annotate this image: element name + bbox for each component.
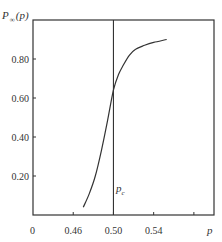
y-axis-label: P∞(p) (1, 9, 29, 24)
x-tick-label: 0.50 (105, 225, 123, 236)
x-origin-label: 0 (30, 225, 35, 236)
x-axis-ticks: 0.460.500.54 (64, 212, 193, 236)
y-tick-label: 0.40 (12, 132, 30, 143)
y-tick-label: 0.60 (12, 93, 30, 104)
x-axis-label: p (206, 224, 213, 236)
x-tick-label: 0.54 (145, 225, 163, 236)
probability-curve (83, 40, 166, 208)
x-tick-label: 0.46 (64, 225, 82, 236)
y-tick-label: 0.80 (12, 54, 30, 65)
plot-border (33, 20, 214, 215)
y-axis-ticks: 0.200.400.600.80 (12, 54, 37, 182)
percolation-chart: 0.460.500.54 0.200.400.600.80 P∞(p) p 0 … (0, 0, 222, 242)
y-tick-label: 0.20 (12, 171, 30, 182)
pc-annotation: pc (115, 182, 126, 197)
plot-frame (33, 20, 214, 215)
